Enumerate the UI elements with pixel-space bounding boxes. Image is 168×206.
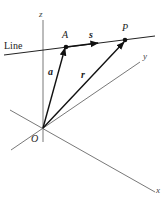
vector-s-label: s <box>88 29 93 40</box>
x-axis-label: x <box>155 185 160 195</box>
origin-label: O <box>31 133 38 144</box>
x-axis <box>10 110 155 192</box>
line-label: Line <box>4 40 23 51</box>
y-axis-label: y <box>142 51 147 61</box>
vector-s <box>66 43 98 47</box>
vector-r-label: r <box>81 69 85 80</box>
point-a-label: A <box>61 29 69 40</box>
point-p <box>123 38 128 43</box>
z-axis-label: z <box>38 9 43 19</box>
vector-line-diagram: Line z y x O A P a r s <box>0 0 168 206</box>
point-p-label: P <box>121 22 128 33</box>
point-a <box>64 45 69 50</box>
vector-a-label: a <box>48 66 53 77</box>
